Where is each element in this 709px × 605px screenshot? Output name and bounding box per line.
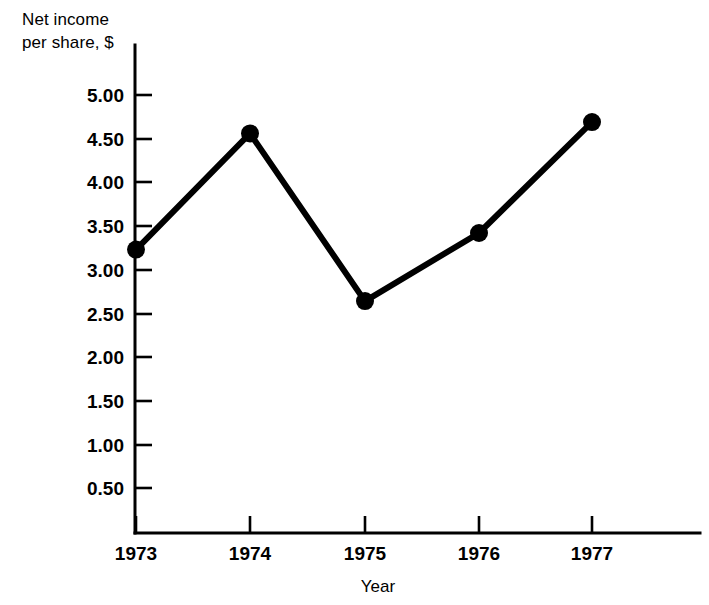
y-tick-label: 5.00 <box>87 85 124 106</box>
y-tick-label: 1.00 <box>87 435 124 456</box>
data-point-1977 <box>583 113 601 131</box>
x-axis-ticks: 1973 1974 1975 1976 1977 <box>115 516 613 564</box>
x-tick-label: 1976 <box>458 543 500 564</box>
x-tick-label: 1973 <box>115 543 157 564</box>
x-axis-title: Year <box>361 577 396 596</box>
data-point-1976 <box>470 224 488 242</box>
y-tick-label: 2.50 <box>87 304 124 325</box>
x-tick-label: 1975 <box>344 543 387 564</box>
y-axis-title-line2: per share, $ <box>22 33 114 52</box>
y-tick-label: 3.50 <box>87 216 124 237</box>
chart-figure: Net income per share, $ 5.00 4.50 4.00 3… <box>0 0 709 605</box>
y-tick-label: 3.00 <box>87 260 124 281</box>
y-tick-label: 4.00 <box>87 172 124 193</box>
y-tick-label: 4.50 <box>87 129 124 150</box>
data-point-1974 <box>241 124 259 142</box>
y-axis-title-line1: Net income <box>22 10 109 29</box>
y-axis-ticks: 5.00 4.50 4.00 3.50 3.00 2.50 2.00 1.50 … <box>87 85 152 499</box>
y-tick-label: 1.50 <box>87 391 124 412</box>
data-point-1973 <box>127 241 145 259</box>
y-tick-label: 0.50 <box>87 478 124 499</box>
line-chart-canvas: Net income per share, $ 5.00 4.50 4.00 3… <box>0 0 709 605</box>
data-point-1975 <box>356 292 374 310</box>
x-tick-label: 1977 <box>571 543 613 564</box>
data-series-markers <box>127 113 601 310</box>
x-tick-label: 1974 <box>229 543 272 564</box>
data-series-line <box>136 122 592 301</box>
y-tick-label: 2.00 <box>87 347 124 368</box>
